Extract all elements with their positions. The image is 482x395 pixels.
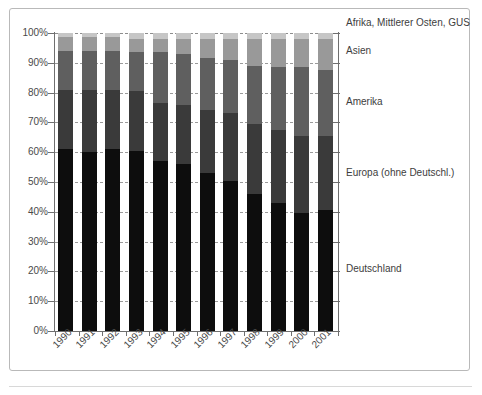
bar-segment [223,60,238,114]
bar-segment [82,51,97,90]
bar-segment [105,90,120,150]
bar-segment [153,103,168,161]
bar-segment [247,194,262,331]
bar-segment [105,37,120,50]
bar-segment [271,130,286,203]
bar-1997[interactable] [223,33,238,331]
plot-area [55,33,338,331]
bar-segment [271,203,286,331]
bar-segment [318,33,333,39]
bar-segment [247,66,262,124]
bar-segment [129,91,144,151]
bar-segment [294,213,309,331]
bar-segment [153,52,168,103]
y-axis-label: 80% [0,88,48,98]
bar-segment [176,39,191,54]
bar-segment [58,33,73,37]
y-axis-label: 10% [0,296,48,306]
y-axis-label: 0% [0,326,48,336]
bar-segment [247,39,262,66]
bar-segment [271,33,286,39]
y-axis-label: 90% [0,58,48,68]
bar-segment [58,90,73,150]
bar-segment [294,39,309,67]
bar-segment [223,181,238,331]
bar-segment [294,67,309,136]
bar-1996[interactable] [200,33,215,331]
bar-1991[interactable] [82,33,97,331]
y-axis-label: 70% [0,117,48,127]
bar-segment [200,39,215,58]
bar-1995[interactable] [176,33,191,331]
bar-segment [58,149,73,331]
bar-1994[interactable] [153,33,168,331]
bar-1992[interactable] [105,33,120,331]
bar-1998[interactable] [247,33,262,331]
y-axis-label: 50% [0,177,48,187]
bar-segment [223,39,238,60]
legend-item-0: Afrika, Mittlerer Osten, GUS [346,18,470,28]
bar-segment [105,33,120,37]
bar-segment [271,39,286,67]
bar-segment [294,33,309,39]
bar-segment [271,67,286,130]
bar-segment [200,173,215,331]
bar-segment [223,33,238,39]
bar-segment [200,33,215,39]
bar-segment [58,51,73,90]
y-axis-label: 60% [0,147,48,157]
legend-item-1: Asien [346,46,371,56]
bar-segment [176,105,191,165]
bar-segment [176,54,191,105]
y-axis-label: 40% [0,207,48,217]
bar-segment [200,58,215,110]
y-axis-label: 30% [0,237,48,247]
bar-segment [82,37,97,50]
legend-item-4: Deutschland [346,264,402,274]
bottom-divider [9,386,472,387]
bar-segment [200,110,215,173]
right-axis-line [338,32,339,332]
bar-segment [247,33,262,39]
bar-segment [82,90,97,153]
bar-segment [82,152,97,331]
bar-segment [318,136,333,211]
bar-segment [153,161,168,331]
bar-1999[interactable] [271,33,286,331]
bar-segment [318,210,333,331]
bar-segment [82,33,97,37]
bar-segment [105,149,120,331]
y-axis-label: 20% [0,266,48,276]
bar-segment [105,51,120,90]
bar-segment [153,39,168,52]
bar-segment [176,33,191,39]
legend-item-2: Amerika [346,97,383,107]
bar-segment [129,39,144,52]
bar-segment [318,39,333,70]
legend-item-3: Europa (ohne Deutschl.) [346,168,454,178]
bar-2000[interactable] [294,33,309,331]
bar-segment [318,70,333,136]
bar-segment [58,37,73,50]
bar-segment [176,164,191,331]
bar-segment [223,113,238,180]
chart-figure: 0%10%20%30%40%50%60%70%80%90%100% 199019… [0,0,482,395]
x-tick [338,331,339,336]
bar-segment [129,52,144,91]
bar-segment [247,124,262,194]
bar-1993[interactable] [129,33,144,331]
y-axis-label: 100% [0,28,48,38]
bar-segment [153,33,168,39]
bar-1990[interactable] [58,33,73,331]
bar-segment [294,136,309,213]
bar-segment [129,151,144,331]
bar-2001[interactable] [318,33,333,331]
bar-segment [129,33,144,39]
